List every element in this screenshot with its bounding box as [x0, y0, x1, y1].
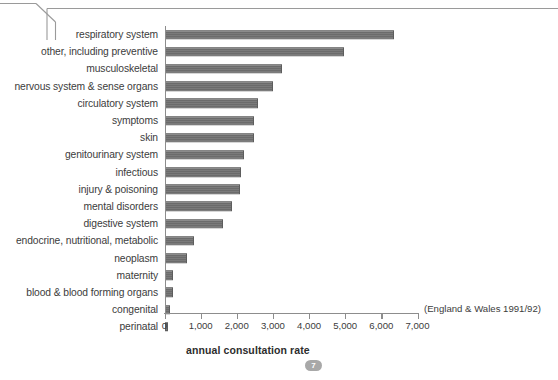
- bar-track: [165, 112, 558, 129]
- x-axis-tick-label: 0: [162, 320, 167, 331]
- x-axis-line: [164, 313, 418, 314]
- bar: [165, 64, 282, 74]
- bar: [165, 81, 273, 91]
- x-axis-tick: [237, 313, 238, 319]
- x-axis-tick-label: 5,000: [333, 320, 357, 331]
- bar: [165, 288, 173, 298]
- bar: [165, 30, 394, 40]
- bar-track: [165, 181, 558, 198]
- bar-category-label: nervous system & sense organs: [0, 81, 165, 92]
- bar-category-label: skin: [0, 132, 165, 143]
- bar: [165, 47, 344, 57]
- bar-track: [165, 26, 558, 43]
- bar-row: neoplasm: [0, 249, 558, 266]
- x-axis-tick-label: 7,000: [405, 320, 429, 331]
- bar: [165, 116, 254, 126]
- bar-category-label: perinatal: [0, 321, 165, 332]
- bar: [165, 99, 258, 109]
- bar-category-label: respiratory system: [0, 29, 165, 40]
- x-axis-tick: [418, 313, 419, 319]
- zero-axis-line: [165, 26, 166, 314]
- bar-category-label: blood & blood forming organs: [0, 287, 165, 298]
- bar-row: blood & blood forming organs: [0, 284, 558, 301]
- x-axis-tick-label: 1,000: [189, 320, 213, 331]
- bar-chart: respiratory systemother, including preve…: [0, 0, 558, 380]
- page-number-badge: 7: [305, 360, 322, 371]
- bar-category-label: infectious: [0, 167, 165, 178]
- bar-row: injury & poisoning: [0, 181, 558, 198]
- bar-row: infectious: [0, 164, 558, 181]
- bar-track: [165, 60, 558, 77]
- bar: [165, 270, 173, 280]
- x-axis-tick-label: 3,000: [261, 320, 285, 331]
- x-axis-tick-label: 2,000: [225, 320, 249, 331]
- bar-row: mental disorders: [0, 198, 558, 215]
- x-axis-tick: [309, 313, 310, 319]
- bar-category-label: musculoskeletal: [0, 63, 165, 74]
- x-axis-tick-label: 4,000: [297, 320, 321, 331]
- bar-row: circulatory system: [0, 95, 558, 112]
- bar-row: maternity: [0, 267, 558, 284]
- bar-row: other, including preventive: [0, 43, 558, 60]
- bar: [165, 219, 223, 229]
- bar: [165, 185, 240, 195]
- bar-row: musculoskeletal: [0, 60, 558, 77]
- x-axis-tick: [345, 313, 346, 319]
- x-axis-tick-label: 6,000: [369, 320, 393, 331]
- bar-track: [165, 249, 558, 266]
- bar: [165, 167, 241, 177]
- bar-category-label: symptoms: [0, 115, 165, 126]
- bar-track: [165, 232, 558, 249]
- x-axis-tick: [165, 313, 166, 319]
- bar-row: genitourinary system: [0, 146, 558, 163]
- bar-track: [165, 284, 558, 301]
- bar-track: [165, 78, 558, 95]
- bar-rows: respiratory systemother, including preve…: [0, 26, 558, 335]
- x-axis-tick: [273, 313, 274, 319]
- bar-row: endocrine, nutritional, metabolic: [0, 232, 558, 249]
- bar-category-label: maternity: [0, 270, 165, 281]
- bar-track: [165, 267, 558, 284]
- x-axis-tick: [201, 313, 202, 319]
- bar: [165, 150, 244, 160]
- bar-category-label: digestive system: [0, 218, 165, 229]
- bar-category-label: injury & poisoning: [0, 184, 165, 195]
- bar: [165, 133, 254, 143]
- bar-category-label: neoplasm: [0, 253, 165, 264]
- bar: [165, 253, 187, 263]
- bar-category-label: mental disorders: [0, 201, 165, 212]
- bar-track: [165, 129, 558, 146]
- bar-row: symptoms: [0, 112, 558, 129]
- bar-track: [165, 43, 558, 60]
- bar-track: [165, 198, 558, 215]
- bar-track: [165, 215, 558, 232]
- bar-row: digestive system: [0, 215, 558, 232]
- x-axis-tick: [381, 313, 382, 319]
- bar: [165, 202, 232, 212]
- bar-row: respiratory system: [0, 26, 558, 43]
- bar-track: [165, 164, 558, 181]
- bar-track: [165, 146, 558, 163]
- bar-category-label: endocrine, nutritional, metabolic: [0, 235, 165, 246]
- bar-category-label: congenital: [0, 304, 165, 315]
- source-annotation: (England & Wales 1991/92): [424, 303, 541, 314]
- bar-category-label: circulatory system: [0, 98, 165, 109]
- bar-row: skin: [0, 129, 558, 146]
- bar-track: [165, 95, 558, 112]
- bar: [165, 236, 194, 246]
- x-axis-title: annual consultation rate: [186, 344, 310, 356]
- bar-row: nervous system & sense organs: [0, 78, 558, 95]
- bar-category-label: genitourinary system: [0, 149, 165, 160]
- bar-category-label: other, including preventive: [0, 46, 165, 57]
